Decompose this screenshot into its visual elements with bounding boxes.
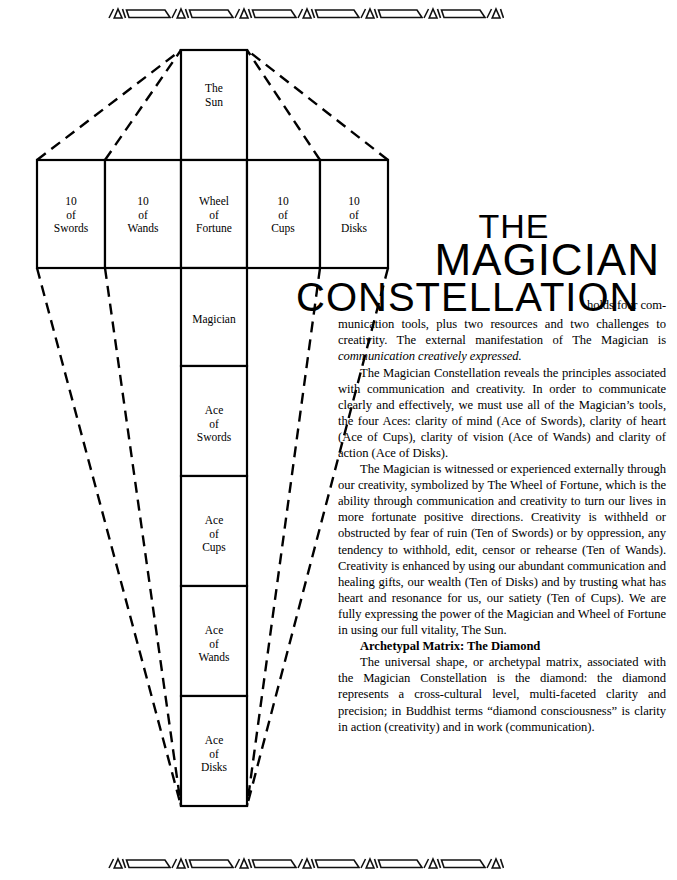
- card-ten-cups-line-0: 10: [277, 195, 289, 207]
- article-lead-in: holds four com-: [587, 299, 666, 312]
- emphasis-phrase: communication creatively expressed.: [338, 349, 522, 363]
- article-title: THE MAGICIAN CONSTELLATIONholds four com…: [338, 210, 666, 316]
- card-the-sun-line-0: The: [205, 82, 223, 94]
- deco-rule-motif: [486, 6, 504, 20]
- page: The Sun 10 of Swords 10 of Wands Wheel o…: [0, 0, 677, 880]
- card-ten-cups-line-1: of: [278, 209, 288, 221]
- card-row: 10 of Swords 10 of Wands Wheel of Fortun…: [37, 160, 388, 268]
- paragraph-1: munication tools, plus two resources and…: [338, 316, 666, 364]
- card-ten-swords-line-2: Swords: [54, 222, 89, 234]
- card-ten-swords-line-1: of: [66, 209, 76, 221]
- bottom-decorative-border: [108, 855, 570, 871]
- title-line-3: CONSTELLATIONholds four com-: [296, 278, 666, 316]
- card-ace-disks-line-2: Disks: [201, 761, 228, 773]
- card-ten-wands-line-1: of: [138, 209, 148, 221]
- title-line-3-text: CONSTELLATION: [296, 275, 639, 319]
- card-column: Magician Ace of Swords Ace of Cups Ace o…: [181, 268, 247, 806]
- card-ace-cups-line-0: Ace: [205, 514, 224, 526]
- card-ace-wands-line-1: of: [209, 638, 219, 650]
- deco-rule-motif: [297, 856, 360, 870]
- deco-rule-motif: [171, 856, 234, 870]
- card-ten-swords-line-0: 10: [65, 195, 77, 207]
- deco-rule-motif: [486, 856, 504, 870]
- card-wheel-of-fortune-line-2: Fortune: [196, 222, 232, 234]
- card-ace-swords-line-1: of: [209, 418, 219, 430]
- card-ace-disks-line-1: of: [209, 748, 219, 760]
- article-body: munication tools, plus two resources and…: [338, 316, 666, 734]
- card-ace-disks-line-0: Ace: [205, 734, 224, 746]
- deco-rule-motif: [234, 856, 297, 870]
- card-ace-swords-line-0: Ace: [205, 404, 224, 416]
- deco-rule-motif: [360, 856, 423, 870]
- card-ace-cups-line-2: Cups: [202, 541, 226, 554]
- card-the-sun: The Sun: [181, 50, 247, 160]
- card-wheel-of-fortune-line-0: Wheel: [199, 195, 229, 207]
- paragraph-1-text: munication tools, plus two resources and…: [338, 317, 666, 347]
- card-ten-cups-line-2: Cups: [271, 222, 295, 235]
- card-ten-wands-line-0: 10: [137, 195, 149, 207]
- paragraph-3: The Magician is witnessed or experienced…: [338, 461, 666, 638]
- paragraph-2: The Magician Constellation reveals the p…: [338, 365, 666, 462]
- card-ace-swords-line-2: Swords: [197, 431, 232, 443]
- article: THE MAGICIAN CONSTELLATIONholds four com…: [338, 210, 666, 735]
- paragraph-4: The universal shape, or archetypal matri…: [338, 654, 666, 734]
- card-ace-cups-line-1: of: [209, 528, 219, 540]
- article-subheading: Archetypal Matrix: The Diamond: [338, 638, 666, 654]
- card-ace-wands-line-2: Wands: [198, 651, 230, 663]
- deco-rule-motif: [108, 856, 171, 870]
- card-ten-disks-line-0: 10: [348, 195, 360, 207]
- card-wheel-of-fortune-line-1: of: [209, 209, 219, 221]
- deco-rule-motif: [423, 856, 486, 870]
- card-the-sun-line-1: Sun: [205, 96, 223, 108]
- card-magician-line-0: Magician: [192, 313, 236, 326]
- card-ten-wands-line-2: Wands: [127, 222, 159, 234]
- card-ace-wands-line-0: Ace: [205, 624, 224, 636]
- deco-rule-motif: [423, 6, 486, 20]
